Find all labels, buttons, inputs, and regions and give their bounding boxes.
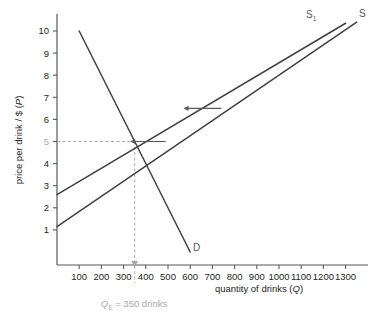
chart-canvas: 12345678910 1002003004005006007008009001… — [0, 0, 377, 326]
curve-S — [57, 22, 357, 226]
x-tick-label: 900 — [249, 271, 265, 282]
y-tick-label: 3 — [44, 180, 49, 191]
x-tick-label: 400 — [138, 271, 154, 282]
x-tick-label: 600 — [182, 271, 198, 282]
x-tick-label: 1100 — [291, 271, 311, 282]
x-tick-label: 1300 — [335, 271, 356, 282]
x-tick-label: 300 — [116, 271, 132, 282]
x-axis-title: quantity of drinks (Q) — [215, 283, 303, 294]
curve-label-D: D — [193, 242, 200, 253]
y-tick-label: 5 — [44, 136, 49, 147]
y-tick-label: 2 — [44, 202, 49, 213]
shift-arrows — [130, 106, 221, 144]
supply-shift-arrow-lower-head — [130, 139, 135, 144]
equilibrium-guides — [57, 142, 138, 284]
y-tick-label: 9 — [44, 48, 49, 59]
curve-labels: DS1S — [193, 8, 366, 253]
y-axis-ticks: 12345678910 — [38, 25, 57, 235]
curve-label-S: S — [359, 8, 366, 19]
y-tick-label: 4 — [44, 158, 49, 169]
x-tick-label: 200 — [93, 271, 109, 282]
curve-lines — [57, 22, 357, 252]
y-tick-label: 6 — [44, 114, 49, 125]
supply-shift-arrow-upper-head — [184, 106, 189, 111]
y-tick-label: 1 — [44, 224, 49, 235]
curve-S1 — [57, 23, 346, 194]
x-tick-label: 1000 — [268, 271, 289, 282]
axes — [57, 14, 368, 265]
x-tick-label: 500 — [160, 271, 176, 282]
x-tick-label: 700 — [204, 271, 220, 282]
x-axis-ticks: 1002003004005006007008009001000110012001… — [71, 265, 356, 282]
supply-demand-chart: 12345678910 1002003004005006007008009001… — [0, 0, 377, 326]
x-tick-label: 800 — [227, 271, 243, 282]
curve-label-S1: S1 — [306, 9, 317, 22]
x-tick-label: 100 — [71, 271, 87, 282]
equilibrium-note: QE = 350 drinks — [101, 298, 168, 311]
x-tick-label: 1200 — [313, 271, 334, 282]
y-axis-title: price per drink / $ (P) — [13, 96, 24, 185]
y-tick-label: 7 — [44, 92, 49, 103]
y-tick-label: 10 — [38, 25, 49, 36]
y-tick-label: 8 — [44, 70, 49, 81]
